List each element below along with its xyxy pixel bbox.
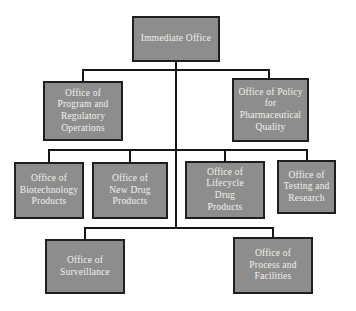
org-node-surveillance: Office ofSurveillance [45,239,125,294]
org-node-process-and-facilities: Office ofProcess andFacilities [233,237,313,294]
org-node-immediate-office: Immediate Office [132,16,220,62]
org-node-biotechnology-products-label: Office ofBiotechnologyProducts [18,172,81,209]
org-node-program-and-regulatory-operations: Office ofProgram andRegulatoryOperations [43,81,123,141]
org-node-policy-for-pharmaceutical-quality-label: Office of PolicyforPharmaceuticalQuality [236,86,304,134]
connector-stub-process [272,227,274,237]
org-node-program-and-regulatory-operations-label: Office ofProgram andRegulatoryOperations [55,87,110,135]
org-node-process-and-facilities-label: Office ofProcess andFacilities [247,247,298,284]
org-chart: Immediate Office Office ofProgram andReg… [0,0,356,311]
org-node-lifecycle-drug-products-label: Office ofLifecycleDrugProducts [204,166,246,214]
org-node-immediate-office-label: Immediate Office [139,32,213,46]
connector-stub-program [82,69,84,81]
connector-stub-new-drug [129,149,131,162]
connector-stub-surveillance [84,227,86,239]
connector-stub-testing [306,149,308,160]
org-node-surveillance-label: Office ofSurveillance [58,254,112,279]
org-node-new-drug-products: Office ofNew DrugProducts [92,162,168,219]
connector-level4-horizontal [84,227,274,229]
org-node-policy-for-pharmaceutical-quality: Office of PolicyforPharmaceuticalQuality [232,78,309,142]
connector-stub-policy [268,69,270,78]
connector-spine-vertical [175,62,177,229]
org-node-biotechnology-products: Office ofBiotechnologyProducts [14,162,84,219]
connector-level3-horizontal [48,149,308,151]
org-node-testing-and-research: Office ofTesting andResearch [277,160,336,214]
connector-stub-lifecycle [224,149,226,161]
org-node-new-drug-products-label: Office ofNew DrugProducts [107,172,152,209]
org-node-testing-and-research-label: Office ofTesting andResearch [281,169,331,206]
connector-level2-horizontal [82,69,270,71]
connector-stub-biotechnology [48,149,50,162]
org-node-lifecycle-drug-products: Office ofLifecycleDrugProducts [185,161,265,219]
